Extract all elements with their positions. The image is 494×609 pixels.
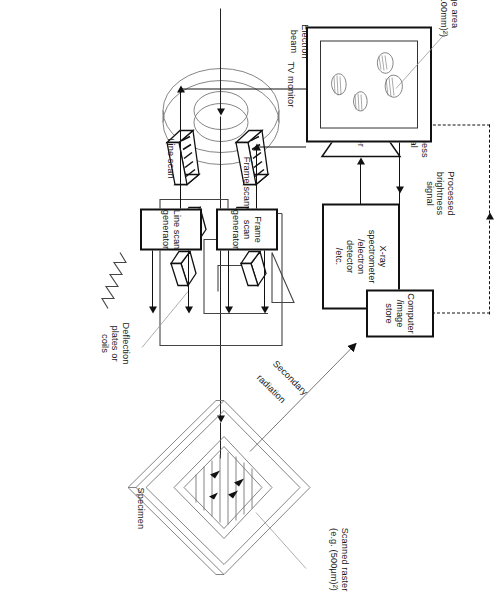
computer-image-store-block[interactable]: Computer /image store [366,289,434,337]
line-scan-line [180,88,181,208]
frame-out-b-arrow [226,306,234,313]
secondary-radiation-arrow [242,333,362,463]
detector-to-amplifier-line [360,160,361,204]
processed-signal-dashed-down [428,124,490,125]
deflection-plates-label: Deflection plates or coils [99,305,131,381]
image-area-label: Image area (e.g. (100mm)²) [439,0,460,52]
electron-beam-axis-entry [220,8,221,112]
processed-signal-dashed-up [432,312,490,313]
frame-out-b [228,250,229,308]
line-scan-riser [181,88,306,89]
line-out-b-arrow [150,306,158,313]
line-scan-label: Line scan [165,128,176,188]
electron-beam-arrow [218,108,226,115]
specimen-label: Specimen [135,487,146,557]
processed-signal-label: Processed brightness signal [424,152,456,234]
line-out-a-arrow [186,306,194,313]
frame-scan-label: Frame scan [241,150,252,212]
frame-sawtooth-waveform-icon [268,250,298,308]
tv-monitor-label: TV monitor [285,36,296,132]
brightness-to-computer-arrow [397,186,405,193]
processed-signal-arrow [486,212,494,219]
frame-scan-riser [257,146,306,147]
frame-scan-line [256,146,257,208]
line-zigzag-waveform-icon [96,250,128,310]
frame-out-a [264,250,265,308]
line-out-b [152,250,153,308]
frame-scan-generator-label: Frame scan generator [218,210,276,248]
computer-label: Computer /image store [368,291,432,335]
scanned-raster-label: Scanned raster (e.g. (500µm)²) [329,513,350,605]
line-out-a [188,250,189,308]
line-scan-generator-label: Line scan generator [142,210,200,248]
frame-scan-generator-block[interactable]: Frame scan generator [216,208,278,250]
line-scan-generator-block[interactable]: Line scan generator [140,208,202,250]
